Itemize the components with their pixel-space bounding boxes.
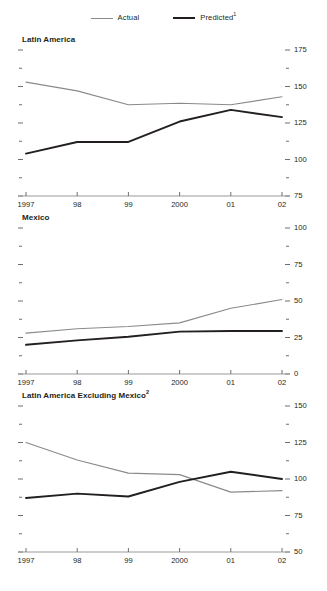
plot-area: 751001251501751997989920000102 <box>0 36 327 214</box>
chart-panel-3: Latin America Excluding Mexico2507510012… <box>0 392 327 570</box>
y-tick-label: 175 <box>294 45 307 54</box>
x-tick-label: 2000 <box>171 378 188 387</box>
plot-area: 02550751001997989920000102 <box>0 214 327 392</box>
series-line-predicted <box>26 331 282 345</box>
legend-item-actual: Actual <box>91 14 140 22</box>
x-tick-label: 02 <box>278 556 286 565</box>
legend-footnote-marker: 1 <box>233 12 236 18</box>
x-tick-label: 98 <box>73 378 81 387</box>
chart-panel-2: Mexico02550751001997989920000102 <box>0 214 327 392</box>
y-tick-label: 50 <box>294 547 302 556</box>
y-tick-label: 100 <box>294 474 307 483</box>
x-tick-label: 99 <box>124 378 132 387</box>
y-tick-label: 150 <box>294 401 307 410</box>
chart-panel-1: Latin America751001251501751997989920000… <box>0 36 327 214</box>
plot-area: 50751001251501997989920000102 <box>0 392 327 570</box>
y-tick-label: 75 <box>294 191 302 200</box>
series-line-actual <box>26 443 282 493</box>
y-tick-label: 100 <box>294 223 307 232</box>
x-tick-label: 01 <box>227 200 235 209</box>
legend-label: Actual <box>118 14 140 22</box>
y-tick-label: 125 <box>294 118 307 127</box>
chart-legend: ActualPredicted1 <box>0 0 327 26</box>
y-tick-label: 0 <box>294 369 298 378</box>
y-tick-label: 150 <box>294 82 307 91</box>
legend-swatch-actual <box>91 18 113 19</box>
x-tick-label: 1997 <box>18 200 35 209</box>
y-tick-label: 75 <box>294 260 302 269</box>
x-tick-label: 01 <box>227 378 235 387</box>
x-tick-label: 01 <box>227 556 235 565</box>
x-tick-label: 1997 <box>18 378 35 387</box>
y-tick-label: 75 <box>294 511 302 520</box>
y-tick-label: 50 <box>294 296 302 305</box>
legend-item-predicted: Predicted1 <box>173 14 236 22</box>
x-tick-label: 1997 <box>18 556 35 565</box>
legend-swatch-predicted <box>173 17 195 19</box>
x-tick-label: 2000 <box>171 556 188 565</box>
y-tick-label: 125 <box>294 438 307 447</box>
x-tick-label: 99 <box>124 556 132 565</box>
x-tick-label: 99 <box>124 200 132 209</box>
series-line-predicted <box>26 472 282 498</box>
series-line-actual <box>26 82 282 105</box>
x-tick-label: 02 <box>278 378 286 387</box>
x-tick-label: 2000 <box>171 200 188 209</box>
legend-label: Predicted1 <box>200 14 236 22</box>
y-tick-label: 25 <box>294 333 302 342</box>
series-line-predicted <box>26 110 282 154</box>
series-line-actual <box>26 300 282 334</box>
x-tick-label: 98 <box>73 556 81 565</box>
x-tick-label: 98 <box>73 200 81 209</box>
x-tick-label: 02 <box>278 200 286 209</box>
y-tick-label: 100 <box>294 155 307 164</box>
